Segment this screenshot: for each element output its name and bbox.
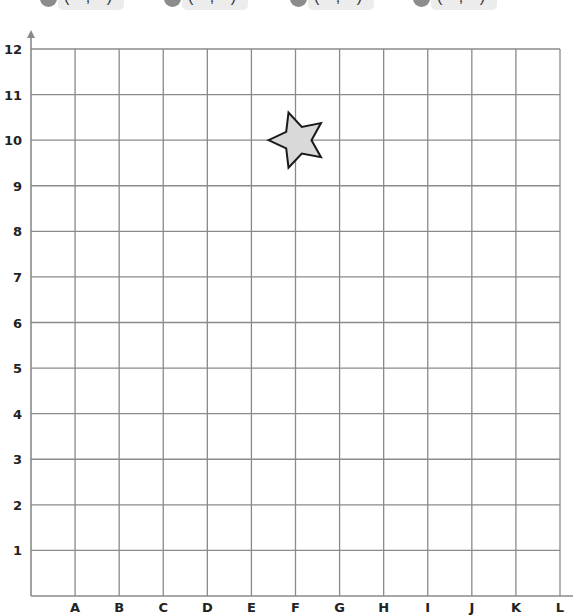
x-tick-label: D [202, 600, 213, 615]
x-tick-label: K [511, 600, 522, 615]
y-tick-label: 2 [13, 498, 22, 513]
y-axis-labels: 123456789101112 [4, 42, 22, 558]
y-tick-label: 8 [13, 224, 22, 239]
x-tick-label: E [247, 600, 256, 615]
x-tick-label: J [468, 600, 474, 615]
x-tick-label: F [291, 600, 300, 615]
x-axis-labels: ABCDEFGHIJKL [70, 600, 564, 615]
y-tick-label: 9 [13, 179, 22, 194]
coordinate-grid: 123456789101112 ABCDEFGHIJKL [0, 0, 573, 615]
y-tick-label: 4 [13, 407, 22, 422]
y-tick-label: 6 [13, 316, 22, 331]
y-axis-arrow-icon [27, 30, 35, 38]
x-tick-label: I [425, 600, 430, 615]
y-tick-label: 11 [4, 88, 22, 103]
y-tick-label: 5 [13, 361, 22, 376]
y-tick-label: 1 [13, 543, 22, 558]
x-tick-label: A [70, 600, 80, 615]
x-tick-label: C [158, 600, 168, 615]
y-tick-label: 10 [4, 133, 22, 148]
y-tick-label: 3 [13, 452, 22, 467]
x-tick-label: B [114, 600, 124, 615]
axes [27, 30, 573, 596]
x-tick-label: G [334, 600, 345, 615]
y-tick-label: 7 [13, 270, 22, 285]
y-tick-label: 12 [4, 42, 22, 57]
x-tick-label: L [556, 600, 564, 615]
x-tick-label: H [378, 600, 389, 615]
